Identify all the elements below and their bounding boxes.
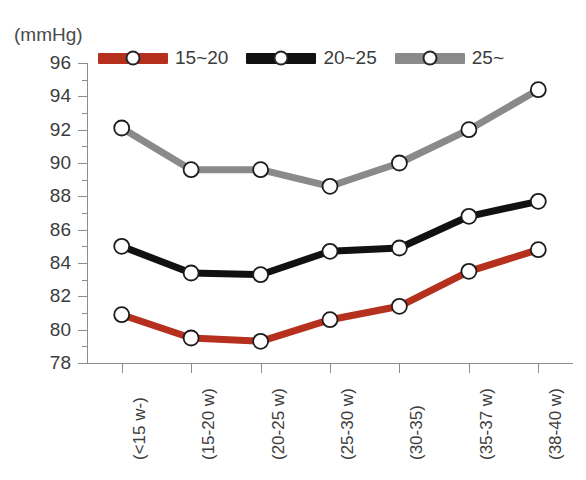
data-point-marker[interactable]	[461, 209, 476, 224]
data-point-marker[interactable]	[114, 121, 129, 136]
data-point-marker[interactable]	[461, 264, 476, 279]
data-point-marker[interactable]	[392, 156, 407, 171]
data-point-marker[interactable]	[253, 334, 268, 349]
data-point-marker[interactable]	[392, 241, 407, 256]
data-point-marker[interactable]	[323, 244, 338, 259]
line-chart: (mmHg) 15~2020~2525~ 7880828486889092949…	[0, 0, 586, 480]
data-point-marker[interactable]	[531, 82, 546, 97]
data-point-marker[interactable]	[323, 312, 338, 327]
data-point-marker[interactable]	[253, 267, 268, 282]
data-point-marker[interactable]	[531, 242, 546, 257]
data-point-marker[interactable]	[461, 122, 476, 137]
data-point-marker[interactable]	[392, 299, 407, 314]
data-point-marker[interactable]	[184, 266, 199, 281]
data-point-marker[interactable]	[253, 162, 268, 177]
data-point-marker[interactable]	[531, 194, 546, 209]
data-point-marker[interactable]	[114, 307, 129, 322]
data-point-marker[interactable]	[184, 162, 199, 177]
data-point-marker[interactable]	[323, 179, 338, 194]
data-point-marker[interactable]	[184, 331, 199, 346]
series-layer	[0, 0, 586, 480]
data-point-marker[interactable]	[114, 239, 129, 254]
